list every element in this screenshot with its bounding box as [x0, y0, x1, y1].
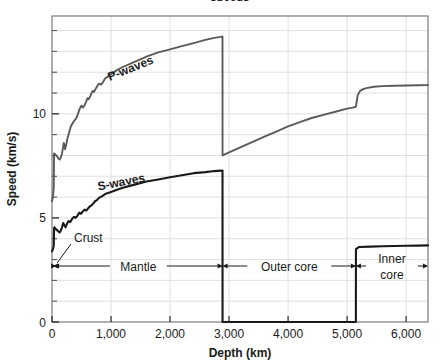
mantle-label: Mantle — [120, 260, 156, 274]
y-tick-label: 0 — [39, 316, 46, 330]
chart-title-fragment: speeds — [150, 0, 310, 1]
chart-svg: 051001,0002,0003,0004,0005,0006,000Depth… — [0, 0, 444, 363]
x-tick-label: 1,000 — [96, 327, 126, 341]
x-tick-label: 4,000 — [273, 327, 303, 341]
inner-core-label-line1: Inner — [378, 252, 405, 266]
seismic-speed-chart: speeds 051001,0002,0003,0004,0005,0006,0… — [0, 0, 444, 363]
x-tick-label: 5,000 — [332, 327, 362, 341]
x-tick-label: 3,000 — [214, 327, 244, 341]
y-axis-title: Speed (km/s) — [5, 132, 19, 207]
crust-label: Crust — [74, 231, 103, 245]
x-tick-label: 6,000 — [391, 327, 421, 341]
x-tick-label: 0 — [49, 327, 56, 341]
x-tick-label: 2,000 — [155, 327, 185, 341]
y-tick-label: 10 — [33, 107, 47, 121]
outer-core-label: Outer core — [261, 260, 318, 274]
inner-core-label-line2: core — [380, 268, 404, 282]
plot-background — [52, 16, 428, 322]
y-tick-label: 5 — [39, 211, 46, 225]
x-axis-title: Depth (km) — [209, 346, 272, 360]
